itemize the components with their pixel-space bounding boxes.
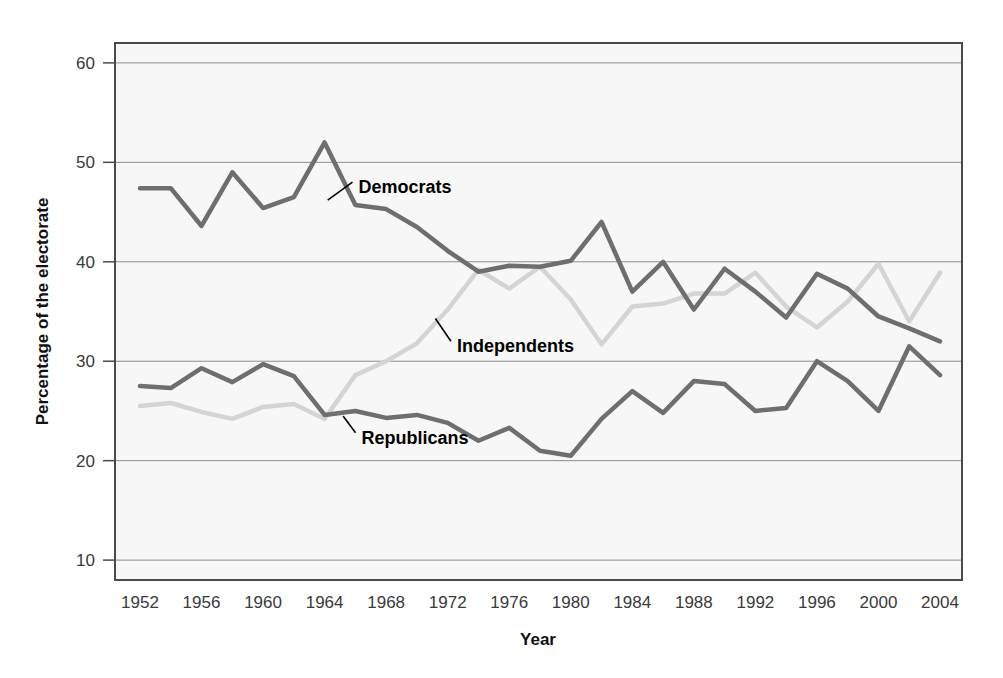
y-axis-tick-labels: 605040302010 [76, 54, 115, 570]
x-tick-label-1992: 1992 [736, 593, 774, 612]
y-tick-label-50: 50 [76, 153, 95, 172]
x-tick-label-1972: 1972 [429, 593, 467, 612]
x-tick-label-1996: 1996 [798, 593, 836, 612]
x-tick-label-1964: 1964 [306, 593, 344, 612]
x-tick-label-1980: 1980 [552, 593, 590, 612]
y-tick-label-20: 20 [76, 452, 95, 471]
chart-container: 605040302010 195219561960196419681972197… [0, 0, 1003, 678]
x-tick-label-1956: 1956 [183, 593, 221, 612]
democrats-label: Democrats [358, 177, 451, 197]
x-tick-label-1968: 1968 [367, 593, 405, 612]
x-tick-label-1952: 1952 [121, 593, 159, 612]
x-axis-tick-labels: 1952195619601964196819721976198019841988… [121, 593, 959, 612]
y-tick-label-40: 40 [76, 253, 95, 272]
y-tick-label-30: 30 [76, 352, 95, 371]
x-tick-label-1976: 1976 [490, 593, 528, 612]
x-axis-title: Year [520, 630, 556, 649]
republicans-label: Republicans [362, 428, 469, 448]
x-tick-label-2004: 2004 [921, 593, 959, 612]
x-tick-label-1960: 1960 [244, 593, 282, 612]
x-tick-label-1984: 1984 [613, 593, 651, 612]
independents-label: Independents [457, 336, 574, 356]
y-tick-label-10: 10 [76, 551, 95, 570]
x-tick-label-1988: 1988 [675, 593, 713, 612]
x-tick-label-2000: 2000 [860, 593, 898, 612]
y-axis-title: Percentage of the electorate [33, 198, 52, 426]
y-tick-label-60: 60 [76, 54, 95, 73]
party-identification-line-chart: 605040302010 195219561960196419681972197… [0, 0, 1003, 678]
